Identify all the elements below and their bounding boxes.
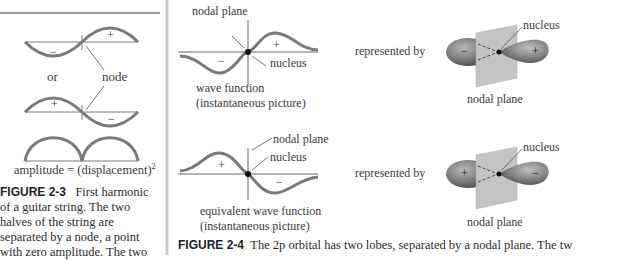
- amplitude-label: amplitude = (displacement)2: [14, 162, 156, 178]
- caption-line: halves of the string are: [0, 215, 165, 230]
- superscript: 2: [152, 162, 156, 171]
- caption-line: First harmonic: [75, 185, 148, 199]
- or-label: or: [47, 69, 58, 85]
- caption-label: FIGURE 2-3: [0, 185, 66, 199]
- plus-sign: +: [218, 158, 225, 173]
- lobe-sign: +: [461, 166, 468, 181]
- minus-sign: −: [276, 175, 283, 190]
- plus-sign: +: [107, 28, 114, 43]
- minus-sign: −: [50, 45, 57, 60]
- caption-label: FIGURE 2-4: [178, 238, 244, 252]
- caption-text: The 2p orbital has two lobes, separated …: [250, 238, 572, 252]
- nodal-plane-label: nodal plane: [273, 132, 329, 147]
- orbital-nucleus-label: nucleus: [523, 18, 560, 33]
- caption-line: with zero amplitude. The two: [0, 245, 165, 260]
- lobe-sign: +: [532, 44, 539, 59]
- orbital-nodal-plane-label: nodal plane: [467, 92, 523, 107]
- nucleus-label: nucleus: [270, 56, 307, 71]
- amplitude-squared: [25, 138, 138, 161]
- nucleus-label: nucleus: [270, 150, 307, 165]
- plus-sign: +: [51, 97, 58, 112]
- guitar-string-1: [25, 28, 138, 56]
- orbital-nodal-plane-label: nodal plane: [467, 215, 523, 230]
- instantaneous-picture-label: (instantaneous picture): [200, 219, 310, 234]
- instantaneous-picture-label: (instantaneous picture): [196, 96, 306, 111]
- wave-function-label: wave function: [196, 81, 264, 96]
- figure-2-3-caption: FIGURE 2-3 First harmonic of a guitar st…: [0, 185, 165, 260]
- caption-line: of a guitar string. The two: [0, 200, 165, 215]
- nodal-plane-label: nodal plane: [192, 4, 248, 19]
- caption-line: separated by a node, a point: [0, 230, 165, 245]
- wave-function-bottom: [178, 138, 318, 200]
- lobe-sign: −: [461, 44, 468, 59]
- figure-2-4-caption: FIGURE 2-4 The 2p orbital has two lobes,…: [178, 238, 572, 253]
- wave-function-label: equivalent wave function: [200, 204, 321, 219]
- represented-by-label: represented by: [355, 166, 425, 181]
- lobe-sign: −: [532, 166, 539, 181]
- guitar-string-2: [25, 98, 138, 126]
- orbital-nucleus-label: nucleus: [523, 140, 560, 155]
- wave-function-top: [178, 20, 318, 86]
- minus-sign: −: [218, 54, 225, 69]
- amplitude-text: amplitude = (displacement): [14, 163, 152, 177]
- node-label: node: [102, 69, 127, 85]
- minus-sign: −: [108, 112, 115, 127]
- represented-by-label: represented by: [355, 44, 425, 59]
- plus-sign: +: [273, 38, 280, 53]
